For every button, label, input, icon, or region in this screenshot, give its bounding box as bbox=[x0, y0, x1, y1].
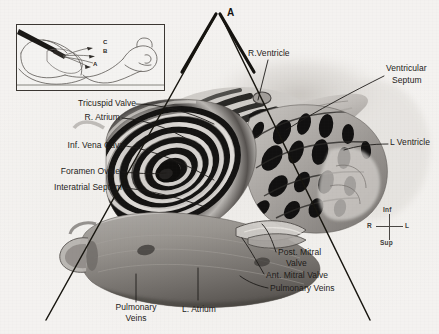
compass-horizontal-axis bbox=[376, 226, 403, 227]
inset-plane-label-b: B bbox=[103, 48, 108, 54]
anatomical-figure: A bbox=[0, 0, 439, 334]
label-ventricular-septum-line1: Ventricular bbox=[386, 64, 427, 74]
label-pulmonary-veins-left-line1: Pulmonary bbox=[106, 303, 166, 313]
label-left-atrium: L. Atrium bbox=[172, 305, 226, 315]
label-ventricular-septum-line2: Septum bbox=[392, 76, 422, 86]
orientation-compass: Inf R L Sup bbox=[366, 206, 414, 248]
compass-vertical-axis bbox=[389, 214, 390, 240]
label-inferior-vena-cava: Inf. Vena Cava bbox=[30, 141, 124, 151]
patient-position-inset: C B A bbox=[16, 24, 165, 91]
label-foramen-ovale: Foramen Ovale bbox=[26, 167, 120, 177]
compass-label-superior: Sup bbox=[380, 239, 393, 246]
inset-plane-label-c: C bbox=[103, 39, 108, 45]
label-pulmonary-veins-left-line2: Veins bbox=[106, 314, 166, 324]
label-right-atrium: R. Atrium bbox=[52, 113, 120, 123]
label-pulmonary-veins-right: Pulmonary Veins bbox=[270, 284, 335, 294]
compass-label-right: R bbox=[367, 222, 372, 229]
label-left-ventricle: L Ventricle bbox=[390, 138, 430, 148]
label-interatrial-septum: Interatrial Septum bbox=[10, 183, 122, 193]
label-post-mitral-valve-line1: Post. Mitral bbox=[278, 248, 321, 258]
label-post-mitral-valve-line2: Valve bbox=[286, 259, 307, 269]
label-tricuspid-valve: Tricuspid Valve bbox=[38, 99, 136, 109]
compass-label-left: L bbox=[405, 222, 409, 229]
compass-label-inferior: Inf bbox=[383, 206, 392, 213]
apex-label-a: A bbox=[227, 7, 234, 18]
label-right-ventricle: R.Ventricle bbox=[248, 49, 290, 59]
inset-plane-label-a: A bbox=[93, 61, 98, 67]
label-ant-mitral-valve: Ant. Mitral Valve bbox=[266, 271, 328, 281]
